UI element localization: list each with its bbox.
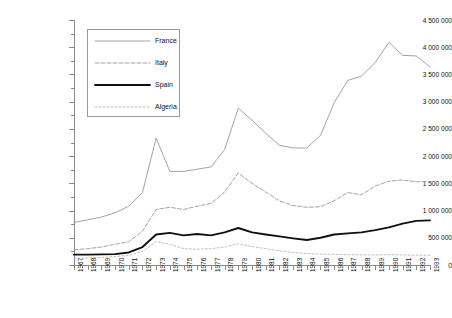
x-tick <box>403 265 404 270</box>
x-tick <box>334 265 335 270</box>
x-tick <box>362 265 363 270</box>
legend-item-algeria[interactable]: Algeria <box>88 96 179 118</box>
series-line-italy <box>74 173 430 250</box>
x-tick <box>88 265 89 270</box>
series-line-algeria <box>74 242 430 259</box>
x-tick <box>279 265 280 270</box>
legend-item-italy[interactable]: Italy <box>88 52 179 74</box>
x-tick <box>115 265 116 270</box>
legend-line-icon <box>94 58 151 68</box>
x-tick <box>252 265 253 270</box>
x-tick <box>293 265 294 270</box>
x-tick <box>389 265 390 270</box>
legend-line-icon <box>94 80 151 90</box>
x-tick <box>142 265 143 270</box>
x-tick <box>225 265 226 270</box>
x-tick <box>266 265 267 270</box>
x-tick <box>238 265 239 270</box>
legend-item-spain[interactable]: Spain <box>88 74 179 96</box>
legend-item-france[interactable]: France <box>88 30 179 52</box>
legend: FranceItalySpainAlgeria <box>87 29 180 117</box>
x-tick <box>348 265 349 270</box>
x-tick-label: 1993 <box>433 258 440 272</box>
x-tick <box>430 265 431 270</box>
x-tick <box>156 265 157 270</box>
x-tick <box>129 265 130 270</box>
x-tick <box>197 265 198 270</box>
x-tick <box>307 265 308 270</box>
legend-line-icon <box>94 36 151 46</box>
x-tick <box>184 265 185 270</box>
line-chart: US$ 000 (1990) 0500 0001 000 0001 500 00… <box>0 0 452 318</box>
legend-label: Spain <box>155 81 173 89</box>
x-tick <box>101 265 102 270</box>
x-tick <box>211 265 212 270</box>
legend-label: France <box>155 37 177 45</box>
legend-label: Algeria <box>155 103 177 111</box>
x-tick <box>170 265 171 270</box>
legend-line-icon <box>94 102 151 112</box>
x-tick <box>74 265 75 270</box>
x-tick <box>416 265 417 270</box>
series-line-spain <box>74 220 430 254</box>
legend-label: Italy <box>155 59 168 67</box>
x-tick <box>375 265 376 270</box>
x-tick <box>320 265 321 270</box>
